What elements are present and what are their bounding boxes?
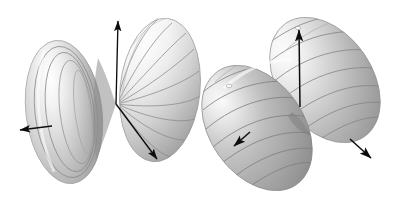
right-panel-lobe-a-apex-notch [226, 84, 232, 87]
figure-canvas: Two 3D quadric surface renderings Graysc… [0, 0, 411, 207]
surface-plot-svg [0, 0, 411, 207]
right-panel-arrow-vertical [299, 30, 300, 107]
right-panel-lobe-b-apex-notch [295, 26, 300, 29]
